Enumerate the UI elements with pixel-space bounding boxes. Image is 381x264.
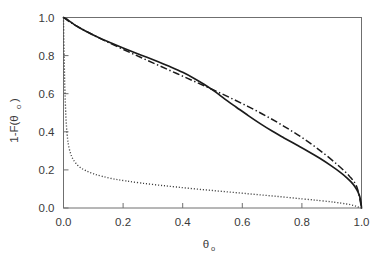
- x-tick-label: 1.0: [354, 216, 370, 228]
- x-tick-label: 0.8: [294, 216, 310, 228]
- y-tick-label: 0.4: [39, 126, 56, 138]
- x-axis-title-subscript: o: [211, 244, 215, 253]
- y-axis-title-subscript: o: [14, 105, 23, 109]
- x-tick-label: 0.4: [175, 216, 192, 228]
- y-axis-title-text: 1-F(θ: [8, 115, 20, 142]
- line-chart: 0.00.20.40.60.81.0 0.00.20.40.60.81.0 θ …: [0, 0, 381, 264]
- y-tick-label: 0.0: [39, 202, 55, 214]
- y-tick-label: 0.8: [39, 50, 55, 62]
- y-axis-title-tail: ): [8, 98, 20, 102]
- chart-figure: 0.00.20.40.60.81.0 0.00.20.40.60.81.0 θ …: [0, 0, 381, 264]
- x-tick-label: 0.0: [56, 216, 72, 228]
- x-tick-label: 0.2: [115, 216, 131, 228]
- y-tick-label: 0.6: [39, 88, 55, 100]
- x-tick-label: 0.6: [234, 216, 250, 228]
- y-tick-label: 0.2: [39, 164, 55, 176]
- x-axis-title-text: θ: [203, 238, 209, 250]
- y-tick-label: 1.0: [39, 12, 55, 24]
